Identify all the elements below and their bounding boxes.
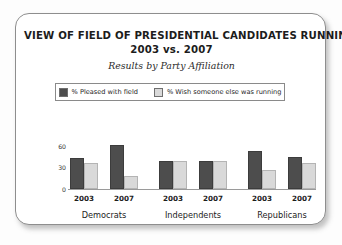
legend-item-pleased: % Pleased with field bbox=[59, 88, 138, 97]
year-label: 2007 bbox=[110, 194, 138, 203]
year-label: 2003 bbox=[159, 194, 187, 203]
bar-pair bbox=[248, 142, 276, 189]
year-group-democrats: 2003 2007 bbox=[70, 194, 138, 203]
party-label-democrats: Democrats bbox=[70, 210, 138, 220]
bar-pair bbox=[110, 142, 138, 189]
bar bbox=[262, 170, 276, 189]
bar bbox=[110, 145, 124, 188]
bar bbox=[288, 157, 302, 189]
bar bbox=[173, 161, 187, 188]
chart-title-line-2: 2003 vs. 2007 bbox=[24, 43, 319, 57]
chart-card: VIEW OF FIELD OF PRESIDENTIAL CANDIDATES… bbox=[15, 13, 326, 225]
y-axis: 60 30 0 bbox=[48, 142, 68, 190]
bar-pair bbox=[288, 142, 316, 189]
y-tick-30: 30 bbox=[58, 164, 66, 171]
legend-label-pleased: % Pleased with field bbox=[72, 88, 138, 96]
bar bbox=[248, 151, 262, 189]
title-block: VIEW OF FIELD OF PRESIDENTIAL CANDIDATES… bbox=[24, 29, 319, 71]
bar bbox=[70, 158, 84, 189]
bar bbox=[84, 163, 98, 188]
bar-pair bbox=[70, 142, 98, 189]
party-label-republicans: Republicans bbox=[248, 210, 316, 220]
bar bbox=[302, 163, 316, 188]
bar-group-independents bbox=[159, 142, 227, 189]
party-label-independents: Independents bbox=[159, 210, 227, 220]
year-group-republicans: 2003 2007 bbox=[248, 194, 316, 203]
year-label: 2003 bbox=[70, 194, 98, 203]
bar-groups bbox=[70, 142, 316, 189]
legend-label-wish: % Wish someone else was running bbox=[167, 88, 281, 96]
legend-swatch-dark-icon bbox=[59, 88, 68, 97]
bar bbox=[124, 176, 138, 189]
chart-title-line-1: VIEW OF FIELD OF PRESIDENTIAL CANDIDATES… bbox=[24, 29, 319, 43]
legend-item-wish: % Wish someone else was running bbox=[154, 88, 281, 97]
y-tick-0: 0 bbox=[62, 185, 66, 192]
bar bbox=[199, 161, 213, 189]
year-label: 2007 bbox=[288, 194, 316, 203]
year-label: 2003 bbox=[248, 194, 276, 203]
year-label: 2007 bbox=[199, 194, 227, 203]
chart-legend: % Pleased with field % Wish someone else… bbox=[55, 83, 285, 101]
party-label-row: Democrats Independents Republicans bbox=[70, 210, 316, 220]
year-label-row: 2003 2007 2003 2007 2003 2007 bbox=[70, 194, 316, 203]
bar bbox=[213, 161, 227, 188]
year-group-independents: 2003 2007 bbox=[159, 194, 227, 203]
y-tick-60: 60 bbox=[58, 143, 66, 150]
plot-area: 60 30 0 bbox=[48, 142, 316, 190]
bar-group-democrats bbox=[70, 142, 138, 189]
chart-subtitle: Results by Party Affiliation bbox=[24, 60, 319, 71]
bar-pair bbox=[159, 142, 187, 189]
bar-pair bbox=[199, 142, 227, 189]
bar bbox=[159, 161, 173, 188]
bar-group-republicans bbox=[248, 142, 316, 189]
x-axis-line bbox=[68, 189, 316, 190]
legend-swatch-light-icon bbox=[154, 88, 163, 97]
screenshot-canvas: VIEW OF FIELD OF PRESIDENTIAL CANDIDATES… bbox=[0, 0, 342, 245]
